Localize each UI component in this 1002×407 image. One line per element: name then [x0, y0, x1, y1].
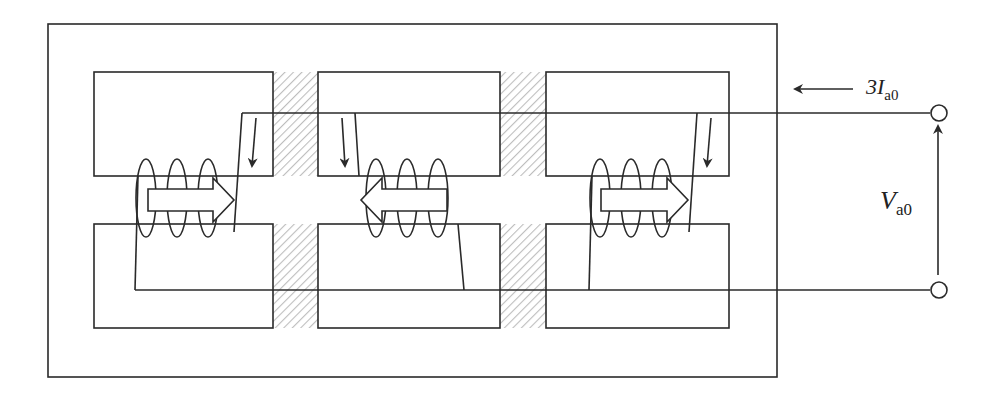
- flux-arrow-left-icon: [148, 178, 234, 222]
- voltage-label-main: V: [880, 186, 896, 215]
- core-block-right-top: [546, 72, 729, 176]
- core-block-left-bottom: [94, 224, 273, 328]
- yoke-gap-top-1: [273, 72, 318, 176]
- flux-arrow-right-icon: [601, 178, 688, 222]
- yoke-gap-bottom-2: [500, 224, 546, 328]
- voltage-label-subscript: a0: [896, 200, 912, 219]
- current-label: 3Ia0: [866, 74, 899, 100]
- core-block-left-top: [94, 72, 273, 176]
- current-label-subscript: a0: [884, 87, 898, 103]
- flux-arrow-middle-icon: [361, 178, 447, 222]
- terminal-bottom: [931, 282, 947, 298]
- terminal-top: [931, 105, 947, 121]
- core-block-middle-bottom: [318, 224, 500, 328]
- current-label-main: 3I: [866, 74, 884, 99]
- yoke-gap-top-2: [500, 72, 546, 176]
- voltage-label: Va0: [880, 186, 912, 216]
- core-block-right-bottom: [546, 224, 729, 328]
- yoke-gap-bottom-1: [273, 224, 318, 328]
- transformer-diagram: [0, 0, 1002, 407]
